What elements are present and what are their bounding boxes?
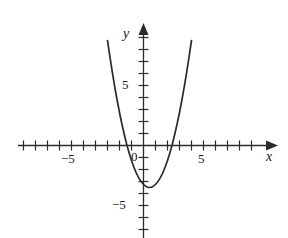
- y-axis-arrow-icon: [139, 23, 149, 35]
- parabola-curve: [108, 41, 192, 188]
- y-tick-label-neg5: −5: [112, 198, 126, 211]
- y-axis-label: y: [123, 27, 129, 41]
- origin-tick-label: 0: [131, 150, 138, 163]
- x-axis-label: x: [266, 150, 272, 164]
- y-tick-label-pos5: 5: [122, 78, 129, 91]
- parabola-graph-figure: y x 0 −5 5 5 −5: [0, 0, 288, 238]
- x-tick-label-neg5: −5: [61, 152, 75, 165]
- graph-canvas: [0, 0, 288, 238]
- x-tick-label-pos5: 5: [198, 152, 205, 165]
